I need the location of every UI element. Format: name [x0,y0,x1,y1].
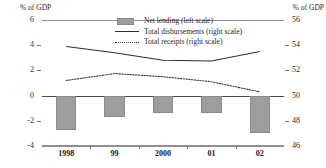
line-total-receipts [66,74,260,92]
solid-line-icon [115,31,139,32]
right-tick-mark [285,121,289,122]
gridline [42,146,284,147]
line-total-disbursements [66,46,260,60]
right-axis-tick-label: 52 [292,66,300,74]
x-axis-label-02: 02 [256,149,264,158]
legend-item-1: Total disbursements (right scale) [115,27,242,38]
gdp-fiscal-chart: % of GDP % of GDP 6420-2-4 565452504846 … [0,0,326,168]
legend-dotted-line-icon [115,38,139,47]
right-tick-mark [285,70,289,71]
x-axis-label-2000: 2000 [155,149,171,158]
x-axis-label-1998: 1998 [58,149,74,158]
legend-solid-line-icon [115,27,139,36]
legend-label: Total disbursements (right scale) [144,27,242,38]
x-axis-line [42,145,284,146]
left-axis-unit-caption: % of GDP [20,3,51,12]
left-axis-tick-label: 4 [30,41,34,49]
left-axis-tick-label: 6 [30,16,34,24]
left-axis-tick-label: -4 [27,142,34,150]
legend-item-2: Total receipts (right scale) [115,37,242,48]
right-axis-tick-label: 46 [292,142,300,150]
x-axis-label-01: 01 [207,149,215,158]
chart-legend: Net lending (left scale)Total disburseme… [115,16,242,48]
x-axis-labels: 19989920000102 [42,149,284,163]
x-axis-label-99: 99 [111,149,119,158]
dotted-line-icon [115,42,139,43]
left-tick-mark [37,45,41,46]
legend-swatch-icon [115,17,139,26]
legend-label: Total receipts (right scale) [144,37,222,48]
left-axis-tick-label: 2 [30,66,34,74]
legend-item-0: Net lending (left scale) [115,16,242,27]
right-axis-tick-label: 56 [292,16,300,24]
right-axis-tick-label: 50 [292,92,300,100]
left-tick-mark [37,70,41,71]
right-axis-tick-label: 54 [292,41,300,49]
legend-label: Net lending (left scale) [144,16,213,27]
left-tick-mark [37,121,41,122]
right-axis-tick-label: 48 [292,117,300,125]
right-axis-unit-caption: % of GDP [293,3,324,12]
left-axis-tick-label: -2 [27,117,34,125]
left-axis-tick-label: 0 [30,92,34,100]
bar-swatch-icon [117,18,134,25]
right-tick-mark [285,45,289,46]
